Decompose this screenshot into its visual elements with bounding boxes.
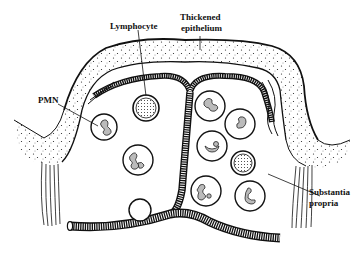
vessel-opening bbox=[67, 222, 72, 231]
lymphocyte bbox=[133, 95, 159, 121]
pmn-cell bbox=[235, 181, 265, 211]
fibers-left bbox=[41, 162, 60, 226]
label-thickened: Thickened bbox=[180, 12, 221, 22]
label-substantia: Substantia bbox=[309, 187, 351, 197]
label-propria: propria bbox=[309, 198, 339, 208]
pmn-cell bbox=[225, 109, 255, 139]
pmn-cell bbox=[91, 114, 117, 140]
label-lymphocyte: Lymphocyte bbox=[110, 21, 158, 31]
pmn-cell bbox=[197, 131, 227, 161]
pmn-cell bbox=[191, 176, 221, 206]
label-epithelium: epithelium bbox=[181, 23, 223, 33]
pmn-cell bbox=[123, 145, 153, 175]
label-pmn: PMN bbox=[38, 95, 59, 105]
tissue-diagram: Lymphocyte Thickened epithelium PMN Subs… bbox=[0, 0, 362, 258]
pmn-cell bbox=[195, 91, 225, 121]
pmn-cell bbox=[129, 199, 151, 221]
lymphocyte bbox=[231, 151, 255, 175]
